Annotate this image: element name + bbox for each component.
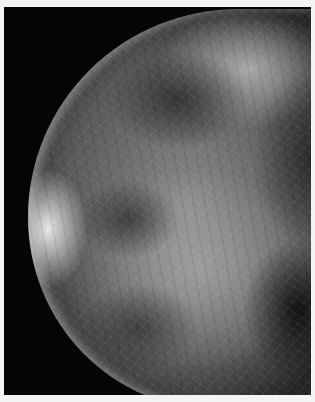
- skin-edge: [28, 9, 311, 395]
- mammogram-image: [4, 7, 311, 395]
- breast-tissue: [28, 9, 311, 395]
